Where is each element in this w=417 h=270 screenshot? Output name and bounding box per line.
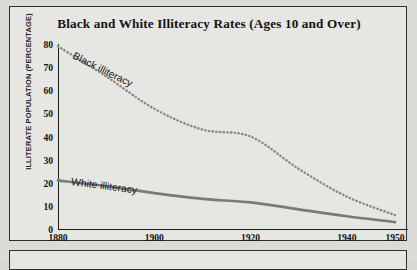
chart-title: Black and White Illiteracy Rates (Ages 1… [10,16,408,32]
x-tick-label: 1940 [337,232,356,243]
y-tick-label: 30 [43,154,53,165]
x-tick-label: 1900 [145,232,164,243]
y-tick-label: 40 [43,131,53,142]
secondary-frame [9,250,407,270]
y-tick-label: 80 [43,39,53,50]
x-tick-label: 1880 [48,232,67,243]
x-tick-label: 1920 [241,232,260,243]
y-tick-label: 50 [43,108,53,119]
y-tick-label: 70 [43,62,53,73]
chart-frame: Black and White Illiteracy Rates (Ages 1… [9,6,407,241]
x-tick-label: 1950 [385,232,404,243]
y-tick-label: 20 [43,177,53,188]
plot-area: Black illiteracy White illiteracy [58,44,395,229]
x-axis-line [58,229,408,230]
x-axis-ticks: 18801900192019401950 [58,232,395,246]
y-tick-label: 10 [43,200,53,211]
y-tick-label: 60 [43,85,53,96]
y-axis-title: ILLITERATE POPULATION (PERCENTAGE) [24,2,33,182]
